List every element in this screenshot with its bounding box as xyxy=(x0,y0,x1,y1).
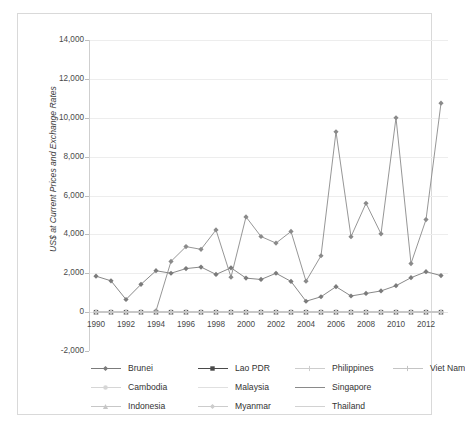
data-point xyxy=(393,115,398,120)
legend-line xyxy=(295,387,325,388)
legend-label: Malaysia xyxy=(235,382,269,393)
x-axis-tick-label: 2000 xyxy=(229,319,263,330)
legend-label: Thailand xyxy=(332,401,365,412)
data-point xyxy=(408,261,413,266)
legend-label: Brunei xyxy=(128,363,153,374)
data-point xyxy=(213,272,218,277)
x-axis-tick-label: 2002 xyxy=(259,319,293,330)
data-point xyxy=(438,273,443,278)
y-axis-tick-label: 12,000 xyxy=(22,74,84,84)
legend-swatch-icon xyxy=(91,363,121,374)
x-axis-tick-label: 1992 xyxy=(109,319,143,330)
series-singapore xyxy=(153,101,443,314)
legend-label: Lao PDR xyxy=(235,363,270,374)
data-point xyxy=(318,253,323,258)
series-brunei xyxy=(93,264,443,303)
x-axis-tick-labels: 1990199219941996199820002002200420062008… xyxy=(89,319,448,335)
data-point xyxy=(348,234,353,239)
series-line xyxy=(96,267,441,301)
data-point xyxy=(228,275,233,280)
data-point xyxy=(363,201,368,206)
legend-marker-icon xyxy=(404,365,411,372)
legend-item-thailand[interactable]: Thailand xyxy=(295,397,365,416)
legend-item-singapore[interactable]: Singapore xyxy=(295,378,371,397)
legend-item-brunei[interactable]: Brunei xyxy=(91,359,153,378)
legend-swatch-icon xyxy=(295,401,325,412)
legend-marker-icon xyxy=(209,403,216,410)
legend-line xyxy=(198,387,228,388)
legend-swatch-icon xyxy=(198,382,228,393)
legend-label: Viet Nam xyxy=(430,363,465,374)
legend-swatch-icon xyxy=(295,363,325,374)
x-axis-tick-label: 2004 xyxy=(289,319,323,330)
data-point xyxy=(198,264,203,269)
series-line xyxy=(156,103,441,311)
legend-swatch-icon xyxy=(393,363,423,374)
x-axis-tick-label: 2006 xyxy=(319,319,353,330)
legend-item-lao-pdr[interactable]: Lao PDR xyxy=(198,359,270,378)
y-axis-tick-label: 2,000 xyxy=(22,268,84,278)
legend-line xyxy=(295,406,325,407)
legend-label: Indonesia xyxy=(128,401,165,412)
x-axis-tick-label: 2010 xyxy=(379,319,413,330)
x-axis-tick-label: 2008 xyxy=(349,319,383,330)
legend-marker-icon xyxy=(102,384,109,391)
x-axis-tick-label: 1990 xyxy=(79,319,113,330)
data-point xyxy=(93,274,98,279)
data-point xyxy=(243,276,248,281)
data-point xyxy=(378,231,383,236)
legend-row: CambodiaMalaysiaSingapore xyxy=(36,378,450,397)
data-point xyxy=(393,283,398,288)
legend-item-myanmar[interactable]: Myanmar xyxy=(198,397,271,416)
legend-label: Singapore xyxy=(332,382,371,393)
legend-row: IndonesiaMyanmarThailand xyxy=(36,397,450,416)
y-axis-tick-labels: -2,00002,0004,0006,0008,00010,00012,0001… xyxy=(18,40,84,351)
x-axis-tick-label: 1998 xyxy=(199,319,233,330)
legend-swatch-icon xyxy=(295,382,325,393)
data-point xyxy=(423,217,428,222)
y-axis-tick-mark xyxy=(85,351,89,352)
x-axis-tick-label: 2012 xyxy=(409,319,443,330)
y-axis-tick-label: 8,000 xyxy=(22,152,84,162)
series-viet-nam xyxy=(93,310,443,315)
data-point xyxy=(168,271,173,276)
y-axis-tick-label: 14,000 xyxy=(22,35,84,45)
data-point xyxy=(363,291,368,296)
y-axis-tick-label: -2,000 xyxy=(22,346,84,356)
legend-label: Cambodia xyxy=(128,382,167,393)
y-axis-tick-label: 10,000 xyxy=(22,113,84,123)
data-point xyxy=(423,269,428,274)
data-point xyxy=(273,271,278,276)
legend-marker-icon xyxy=(209,365,216,372)
legend-marker-icon xyxy=(102,403,109,410)
y-axis-tick-label: 4,000 xyxy=(22,229,84,239)
legend-swatch-icon xyxy=(91,382,121,393)
legend-swatch-icon xyxy=(198,401,228,412)
legend-marker-icon xyxy=(102,365,109,372)
legend-item-indonesia[interactable]: Indonesia xyxy=(91,397,165,416)
legend-label: Myanmar xyxy=(235,401,271,412)
legend-swatch-icon xyxy=(198,363,228,374)
data-point xyxy=(333,129,338,134)
x-axis-tick-label: 1996 xyxy=(169,319,203,330)
plot-area xyxy=(89,40,448,351)
legend-item-malaysia[interactable]: Malaysia xyxy=(198,378,269,397)
data-point xyxy=(408,275,413,280)
legend-label: Philippines xyxy=(332,363,374,374)
data-point xyxy=(318,294,323,299)
y-axis-tick-label: 0 xyxy=(22,307,84,317)
data-point xyxy=(348,293,353,298)
legend-item-cambodia[interactable]: Cambodia xyxy=(91,378,167,397)
chart-legend: BruneiLao PDRPhilippinesViet NamCambodia… xyxy=(36,359,450,421)
y-axis-tick-label: 6,000 xyxy=(22,191,84,201)
data-point xyxy=(378,288,383,293)
legend-item-philippines[interactable]: Philippines xyxy=(295,359,374,378)
data-point xyxy=(258,277,263,282)
legend-item-viet-nam[interactable]: Viet Nam xyxy=(393,359,465,378)
data-point xyxy=(438,101,443,106)
data-point xyxy=(333,284,338,289)
legend-row: BruneiLao PDRPhilippinesViet Nam xyxy=(36,359,450,378)
data-point xyxy=(303,279,308,284)
legend-marker-icon xyxy=(306,365,313,372)
